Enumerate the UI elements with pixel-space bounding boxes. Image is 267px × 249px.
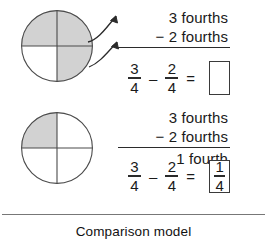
fraction-circle-one-fourth — [21, 112, 93, 184]
fraction-equation-bottom: 3 4 – 2 4 = 1 4 — [128, 156, 230, 196]
caption-divider — [2, 214, 265, 215]
fraction-three-fourths: 3 4 — [128, 159, 141, 192]
fraction-equation-top: 3 4 – 2 4 = — [128, 58, 230, 98]
numerator: 3 — [128, 61, 140, 77]
numerator: 2 — [166, 61, 178, 77]
equals-sign: = — [178, 71, 203, 86]
figure-caption: Comparison model — [0, 224, 267, 239]
fraction-two-fourths: 2 4 — [165, 61, 178, 94]
fraction-one-fourth: 1 4 — [213, 159, 225, 192]
word-subtrahend: − 2 fourths — [118, 27, 230, 48]
numerator: 3 — [128, 159, 140, 175]
numerator: 1 — [213, 159, 225, 175]
word-subtrahend: − 2 fourths — [118, 127, 230, 148]
denominator: 4 — [166, 79, 178, 95]
denominator: 4 — [128, 177, 140, 193]
word-minuend: 3 fourths — [118, 108, 230, 127]
fraction-circle-three-fourths — [21, 10, 93, 82]
panel-top: 3 fourths − 2 fourths 3 4 – 2 4 = — [0, 0, 267, 104]
panel-bottom: 3 fourths − 2 fourths 1 fourth 3 4 – 2 4… — [0, 104, 267, 212]
denominator: 4 — [128, 79, 140, 95]
answer-box-empty[interactable] — [209, 61, 230, 95]
minus-operator: – — [141, 71, 165, 86]
fraction-three-fourths: 3 4 — [128, 61, 141, 94]
word-form-subtraction-top: 3 fourths − 2 fourths — [118, 8, 230, 48]
equals-sign: = — [178, 169, 203, 184]
numerator: 2 — [166, 159, 178, 175]
word-minuend: 3 fourths — [118, 8, 230, 27]
denominator: 4 — [213, 177, 225, 193]
minus-operator: – — [141, 169, 165, 184]
answer-box-filled[interactable]: 1 4 — [209, 160, 230, 193]
comparison-model-figure: 3 fourths − 2 fourths 3 4 – 2 4 = — [0, 0, 267, 249]
denominator: 4 — [166, 177, 178, 193]
fraction-two-fourths: 2 4 — [165, 159, 178, 192]
